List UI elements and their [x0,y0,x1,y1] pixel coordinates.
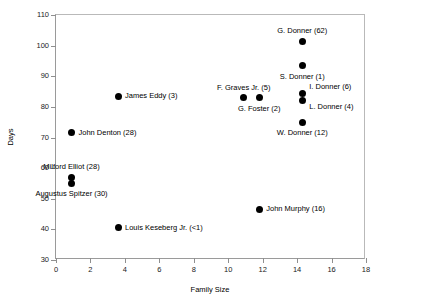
x-tick-label: 0 [54,266,58,274]
x-axis-title: Family Size [55,286,365,294]
x-tick-mark [125,258,126,263]
data-point [115,93,122,100]
x-tick-label: 12 [258,266,266,274]
x-tick-mark [366,258,367,263]
x-tick-mark [263,258,264,263]
y-tick-mark [51,229,56,230]
x-tick-mark [56,258,57,263]
data-point-label: I. Donner (6) [309,83,351,91]
y-tick-mark [51,15,56,16]
y-tick-label: 90 [41,73,49,81]
data-point [115,224,122,231]
data-point [299,38,306,45]
y-tick-label: 30 [41,256,49,264]
y-tick-label: 70 [41,134,49,142]
data-point-label: John Denton (28) [79,129,137,137]
x-tick-label: 18 [362,266,370,274]
x-tick-mark [332,258,333,263]
data-point-label: James Eddy (3) [125,92,178,100]
data-point-label: Louis Keseberg Jr. (<1) [125,224,203,232]
data-point [240,94,247,101]
y-tick-label: 100 [36,42,49,50]
y-tick-mark [51,46,56,47]
data-point [299,90,306,97]
x-tick-label: 6 [157,266,161,274]
y-tick-mark [51,199,56,200]
x-tick-mark [297,258,298,263]
x-tick-label: 2 [88,266,92,274]
x-tick-mark [194,258,195,263]
x-tick-label: 10 [224,266,232,274]
data-point-label: G. Foster (2) [238,105,281,113]
x-tick-label: 14 [293,266,301,274]
y-tick-mark [51,107,56,108]
data-point-label: Augustus Spitzer (30) [35,190,107,198]
data-point-label: G. Donner (62) [277,27,327,35]
data-point-label: L. Donner (4) [309,103,353,111]
x-tick-label: 8 [192,266,196,274]
data-point [256,94,263,101]
y-axis-title-container: Days [20,14,40,259]
data-point [299,97,306,104]
data-point-label: John Murphy (16) [266,206,325,214]
y-axis-title: Days [7,128,15,145]
plot-area: 30405060708090100110 024681012141618 G. … [55,14,365,259]
data-point [68,180,75,187]
x-tick-mark [159,258,160,263]
y-tick-label: 80 [41,103,49,111]
data-point-label: Milford Elliot (28) [43,163,99,171]
data-point [299,62,306,69]
x-tick-mark [228,258,229,263]
y-tick-mark [51,76,56,77]
x-tick-label: 4 [123,266,127,274]
x-tick-label: 16 [327,266,335,274]
y-tick-label: 40 [41,226,49,234]
scatter-chart: Days 30405060708090100110 02468101214161… [0,0,425,308]
data-point [299,119,306,126]
data-point-label: S. Donner (1) [280,73,325,81]
data-point [68,129,75,136]
y-tick-mark [51,138,56,139]
data-point [256,206,263,213]
y-tick-label: 110 [37,11,49,19]
x-tick-mark [90,258,91,263]
data-point-label: W. Donner (12) [277,129,328,137]
data-point-label: F. Graves Jr. (5) [217,83,270,91]
